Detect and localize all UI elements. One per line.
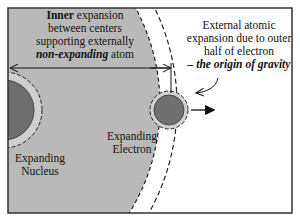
external-line1: External atomic bbox=[186, 19, 292, 32]
inner-expansion-label: Inner expansion between centers supporti… bbox=[30, 9, 140, 61]
inner-line2: between centers bbox=[30, 22, 140, 35]
electron-line2: Electron bbox=[104, 143, 160, 156]
inner-line4-rest: atom bbox=[108, 48, 134, 60]
nucleus-label: Expanding Nucleus bbox=[10, 152, 70, 178]
electron bbox=[154, 95, 184, 125]
inner-word: Inner bbox=[47, 9, 74, 21]
external-expansion-label: External atomic expansion due to outer h… bbox=[186, 19, 292, 71]
gravity-pointer-arrow bbox=[196, 78, 218, 93]
inner-line1-rest: expansion bbox=[74, 9, 124, 21]
electron-label: Expanding Electron bbox=[104, 130, 160, 156]
atom-expansion-diagram: Inner expansion between centers supporti… bbox=[0, 0, 300, 219]
origin-of-gravity-text: – the origin of gravity bbox=[186, 58, 292, 71]
nucleus-line2: Nucleus bbox=[10, 165, 70, 178]
inner-line3: supporting externally bbox=[30, 35, 140, 48]
external-line3: half of electron bbox=[186, 45, 292, 58]
non-expanding-word: non-expanding bbox=[36, 48, 108, 60]
nucleus-line1: Expanding bbox=[10, 152, 70, 165]
electron-line1: Expanding bbox=[104, 130, 160, 143]
external-line2: expansion due to outer bbox=[186, 32, 292, 45]
